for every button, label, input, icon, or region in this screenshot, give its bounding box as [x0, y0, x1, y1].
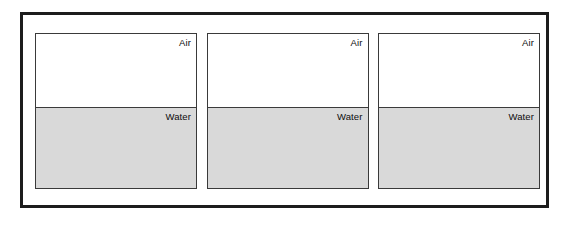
container-2-air-layer: Air — [208, 34, 368, 107]
container-2-water-layer: Water — [208, 107, 368, 188]
container-3-water-layer: Water — [379, 107, 539, 188]
outer-frame: Air Water Air Water Air — [20, 12, 549, 208]
container-2: Air Water — [207, 33, 369, 189]
container-3-water-label: Water — [509, 111, 534, 122]
container-1-air-label: Air — [179, 37, 191, 48]
container-3-air-layer: Air — [379, 34, 539, 107]
container-1: Air Water — [35, 33, 197, 189]
figure-root: Air Water Air Water Air — [0, 0, 574, 225]
container-1-water-layer: Water — [36, 107, 196, 188]
container-row: Air Water Air Water Air — [35, 33, 540, 191]
container-1-air-layer: Air — [36, 34, 196, 107]
container-3: Air Water — [378, 33, 540, 189]
container-2-air-label: Air — [351, 37, 363, 48]
container-1-water-label: Water — [166, 111, 191, 122]
container-2-water-label: Water — [337, 111, 362, 122]
container-3-air-label: Air — [522, 37, 534, 48]
